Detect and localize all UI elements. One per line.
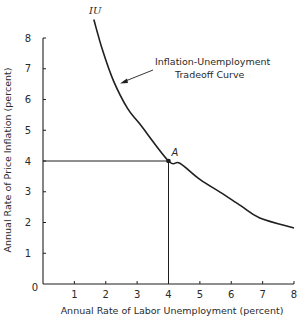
curve-label: IU [88, 5, 102, 16]
y-tick-label: 6 [25, 94, 31, 105]
y-axis-title: Annual Rate of Price Inflation (percent) [2, 68, 13, 253]
x-tick-label: 1 [71, 289, 77, 300]
y-tick-label: 8 [25, 33, 31, 44]
x-tick-label: 6 [228, 289, 234, 300]
x-tick-label: 4 [165, 289, 171, 300]
x-tick-label: 2 [103, 289, 109, 300]
point-a-label: A [171, 147, 179, 158]
axes: 01234567812345678 [25, 33, 298, 301]
annotation-arrow [120, 70, 153, 84]
reference-lines [43, 161, 169, 284]
tradeoff-chart: 01234567812345678 A IU Inflation-Unemplo… [0, 0, 298, 318]
x-tick-label: 8 [291, 289, 297, 300]
y-tick-label: 7 [25, 63, 31, 74]
annotation-line1: Inflation-Unemployment [155, 56, 271, 67]
x-tick-label: 0 [32, 282, 38, 293]
y-tick-label: 2 [25, 217, 31, 228]
x-tick-label: 3 [134, 289, 140, 300]
annotation-line2: Tradeoff Curve [174, 69, 245, 80]
iu-curve [94, 20, 294, 228]
y-tick-label: 3 [25, 186, 31, 197]
x-tick-label: 5 [197, 289, 203, 300]
y-tick-label: 5 [25, 125, 31, 136]
x-tick-label: 7 [259, 289, 265, 300]
x-axis-title: Annual Rate of Labor Unemployment (perce… [61, 305, 284, 316]
y-tick-label: 1 [25, 248, 31, 259]
point-a-marker [166, 159, 171, 164]
y-tick-label: 4 [25, 156, 31, 167]
